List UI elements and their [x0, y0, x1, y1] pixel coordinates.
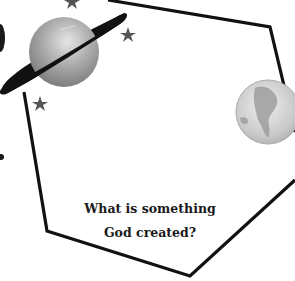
question-line-2: God created? — [70, 221, 230, 245]
star-icon — [32, 96, 48, 111]
planet-icon — [0, 13, 127, 95]
question-line-1: What is something — [70, 197, 230, 221]
star-icon — [64, 0, 80, 9]
hexagon-card: What is something God created? — [0, 0, 295, 281]
question-text: What is something God created? — [70, 197, 230, 245]
star-icon — [120, 27, 136, 42]
globe-icon — [236, 80, 295, 144]
